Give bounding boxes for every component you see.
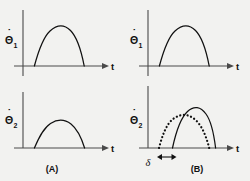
delta-symbol-label: δ [146, 157, 152, 168]
xlabel-t-b-bottom: t [236, 143, 240, 154]
subplot-b-bottom: Θ ˙ 2 t δ [130, 86, 240, 168]
ylabel-overdot-b-bottom: ˙ [133, 107, 137, 119]
x-axis-arrowhead-b-top [227, 63, 234, 69]
ylabel-subscript-a-top: 1 [13, 42, 17, 49]
x-axis-arrowhead-a-top [102, 63, 109, 69]
curve-theta1-dot-a [34, 26, 84, 66]
delta-arrowhead-right [172, 154, 177, 160]
ylabel-subscript-b-top: 1 [138, 42, 142, 49]
ylabel-subscript-a-bottom: 2 [13, 122, 17, 129]
xlabel-t-a-bottom: t [111, 143, 115, 154]
xlabel-t-a-top: t [111, 61, 115, 72]
ylabel-overdot-b-top: ˙ [133, 27, 137, 39]
curve-theta1-dot-b [159, 26, 209, 66]
two-panel-velocity-profile-figure: Θ ˙ 1 t Θ ˙ 2 t (A) [0, 0, 250, 181]
delta-offset-annotation: δ [146, 154, 177, 168]
curve-theta2-dot-a [34, 120, 84, 148]
ylabel-overdot-a-top: ˙ [8, 27, 12, 39]
curve-theta2-dot-b [173, 108, 216, 148]
curve-theta2-dot-shifted-b [159, 115, 209, 148]
panel-a: Θ ˙ 1 t Θ ˙ 2 t (A) [5, 10, 115, 174]
figure-container: Θ ˙ 1 t Θ ˙ 2 t (A) [0, 0, 250, 181]
subplot-a-top: Θ ˙ 1 t [5, 10, 115, 76]
x-axis-arrowhead-b-bottom [227, 145, 234, 151]
panel-b: Θ ˙ 1 t Θ ˙ 2 t [130, 10, 240, 174]
ylabel-overdot-a-bottom: ˙ [8, 107, 12, 119]
panel-caption-b: (B) [191, 164, 204, 174]
x-axis-arrowhead-a-bottom [102, 145, 109, 151]
ylabel-subscript-b-bottom: 2 [138, 122, 142, 129]
subplot-a-bottom: Θ ˙ 2 t [5, 92, 115, 154]
delta-arrowhead-left [157, 154, 162, 160]
xlabel-t-b-top: t [236, 61, 240, 72]
subplot-b-top: Θ ˙ 1 t [130, 10, 240, 76]
panel-caption-a: (A) [46, 164, 59, 174]
